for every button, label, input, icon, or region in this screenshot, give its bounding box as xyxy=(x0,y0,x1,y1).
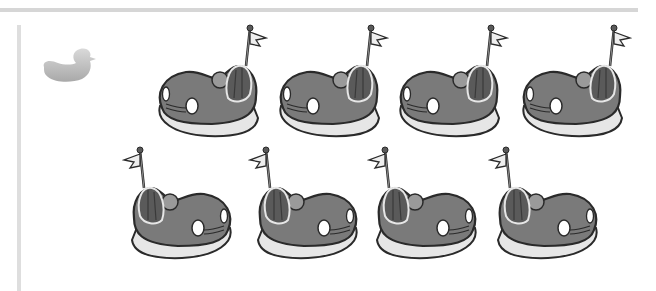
top-divider xyxy=(0,8,638,12)
bumper-car-5 xyxy=(122,146,238,266)
bumper-car-3 xyxy=(393,24,509,144)
bumper-car-6 xyxy=(248,146,364,266)
bumper-car-2 xyxy=(273,24,389,144)
duck-icon xyxy=(38,45,102,85)
bumper-car-8 xyxy=(488,146,604,266)
bumper-car-7 xyxy=(367,146,483,266)
bumper-car-4 xyxy=(516,24,632,144)
left-divider xyxy=(17,25,21,291)
bumper-car-1 xyxy=(152,24,268,144)
